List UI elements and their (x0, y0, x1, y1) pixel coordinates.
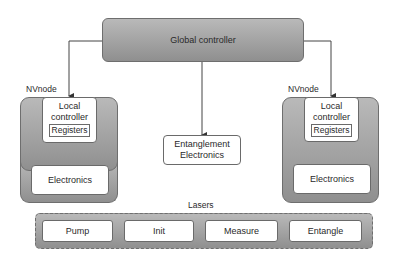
nvnode-right-registers: Registers (311, 124, 352, 137)
local-controller-label-line2: controller (313, 112, 350, 123)
local-controller-label-line1: Local (59, 101, 81, 112)
laser-measure-label: Measure (224, 226, 259, 237)
entanglement-electronics-box: Entanglement Electronics (163, 135, 241, 165)
laser-init-label: Init (153, 226, 165, 237)
registers-label: Registers (52, 125, 88, 136)
entanglement-label-line2: Electronics (180, 150, 224, 161)
laser-entangle: Entangle (289, 220, 362, 242)
laser-entangle-label: Entangle (308, 226, 344, 237)
global-controller-box: Global controller (102, 18, 304, 62)
registers-label: Registers (314, 125, 350, 136)
nvnode-left-registers: Registers (49, 124, 90, 137)
nvnode-left-electronics: Electronics (31, 165, 109, 195)
laser-measure: Measure (205, 220, 278, 242)
nvnode-left-local-controller: Local controller Registers (42, 97, 97, 143)
nvnode-left-title: NVnode (26, 84, 57, 94)
electronics-label: Electronics (310, 174, 354, 185)
nvnode-right-electronics: Electronics (293, 164, 371, 194)
nvnode-right-local-controller: Local controller Registers (304, 97, 359, 142)
local-controller-label-line1: Local (321, 101, 343, 112)
electronics-label: Electronics (48, 175, 92, 186)
nvnode-right-title: NVnode (288, 84, 319, 94)
laser-pump: Pump (42, 220, 113, 242)
local-controller-label-line2: controller (51, 112, 88, 123)
laser-init: Init (124, 220, 194, 242)
global-controller-label: Global controller (170, 35, 236, 45)
laser-pump-label: Pump (66, 226, 90, 237)
entanglement-label-line1: Entanglement (174, 139, 230, 150)
lasers-title: Lasers (188, 200, 214, 210)
